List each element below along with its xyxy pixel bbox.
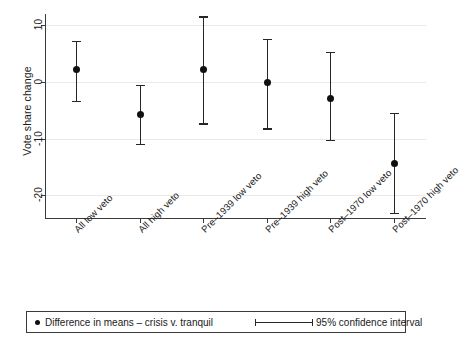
legend: Difference in means – crisis v. tranquil…: [26, 311, 406, 333]
x-tick-label: Pre–1939 low veto: [199, 170, 264, 235]
confidence-interval-cap-top: [72, 41, 81, 42]
confidence-interval-cap-bottom: [199, 123, 208, 124]
x-axis-line: [45, 218, 426, 219]
legend-label-confidence-interval: 95% confidence interval: [316, 317, 422, 328]
data-point-marker: [137, 111, 144, 118]
confidence-interval-cap-top: [136, 85, 145, 86]
gridline: [46, 25, 426, 26]
y-tick-label: -20: [33, 183, 44, 207]
y-tick-label: 10: [33, 13, 44, 37]
confidence-interval-cap-bottom: [72, 101, 81, 102]
x-tick-label: Post–1970 low veto: [326, 167, 394, 235]
confidence-interval-cap-bottom: [326, 140, 335, 141]
data-point-marker: [391, 160, 398, 167]
data-point-marker: [200, 66, 207, 73]
y-tick-label: -10: [33, 126, 44, 150]
x-tick-label: All low veto: [72, 192, 115, 235]
gridline: [46, 139, 426, 140]
confidence-interval-cap-top: [326, 52, 335, 53]
data-point-marker: [327, 95, 334, 102]
gridline: [46, 82, 426, 83]
confidence-interval-cap-bottom: [136, 144, 145, 145]
confidence-interval-cap-bottom: [263, 128, 272, 129]
legend-item-confidence-interval: 95% confidence interval: [255, 317, 422, 328]
legend-item-difference-in-means: Difference in means – crisis v. tranquil: [35, 317, 213, 328]
x-tick-label: Pre–1939 high veto: [263, 167, 330, 234]
confidence-interval-cap-top: [390, 113, 399, 114]
legend-label-difference-in-means: Difference in means – crisis v. tranquil: [45, 317, 213, 328]
data-point-marker: [264, 79, 271, 86]
y-axis-title: Vote share change: [21, 36, 33, 186]
confidence-interval-cap-top: [199, 16, 208, 17]
confidence-interval-cap-bottom: [390, 213, 399, 214]
y-axis-line: [45, 14, 46, 218]
errorbar-marker-icon: [255, 319, 313, 326]
data-point-marker: [73, 66, 80, 73]
dot-marker-icon: [35, 320, 40, 325]
confidence-interval-cap-top: [263, 39, 272, 40]
plot-area: 100-10-20 All low vetoAll high vetoPre–1…: [45, 14, 426, 218]
y-tick-label: 0: [33, 70, 44, 94]
x-tick-label: Post–1970 high veto: [390, 164, 460, 234]
